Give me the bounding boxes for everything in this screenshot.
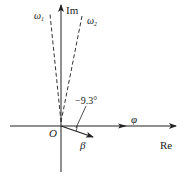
omega-1-line xyxy=(50,14,61,122)
phi-label: φ xyxy=(131,113,137,125)
angle-label: −9.3° xyxy=(75,95,97,106)
beta-label: β xyxy=(79,139,86,151)
imaginary-axis-label: Im xyxy=(66,4,79,16)
omega-2-line xyxy=(61,16,82,122)
phasor-diagram: Im Re O ω1 ω2 φ β −9.3° xyxy=(0,0,186,181)
angle-leader xyxy=(76,106,86,128)
omega-1-label: ω1 xyxy=(34,10,44,22)
origin-label: O xyxy=(49,127,57,139)
real-axis-label: Re xyxy=(160,139,172,151)
omega-2-label: ω2 xyxy=(87,15,97,27)
